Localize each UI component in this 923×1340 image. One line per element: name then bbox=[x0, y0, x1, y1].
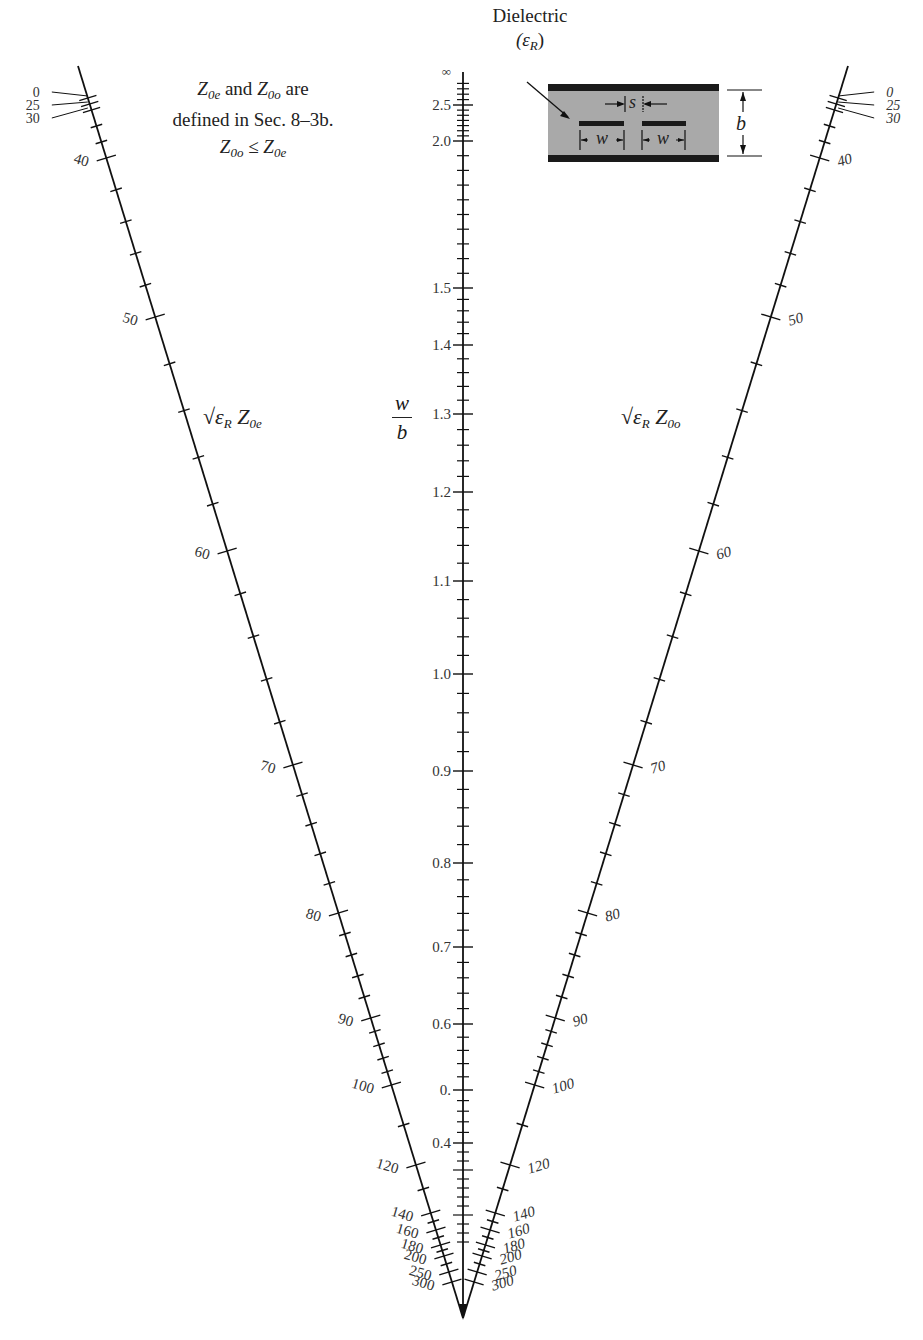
z-subscript: 0e bbox=[208, 87, 220, 102]
width-w-label-left: w bbox=[596, 128, 608, 149]
svg-text:2.5: 2.5 bbox=[432, 97, 451, 113]
svg-text:30: 30 bbox=[26, 111, 40, 126]
z-symbol: Z bbox=[263, 136, 274, 157]
dielectric-text: Dielectric bbox=[465, 4, 595, 28]
bottom-ground-plane bbox=[548, 155, 719, 162]
svg-text:50: 50 bbox=[121, 309, 140, 329]
left-scale-title: √εR Z0e bbox=[203, 404, 262, 432]
svg-text:100: 100 bbox=[350, 1075, 376, 1097]
epsilon-symbol: (ε bbox=[516, 29, 530, 50]
sqrt-epsilon: √ε bbox=[621, 404, 642, 429]
z-subscript: 0e bbox=[249, 416, 261, 431]
sqrt-epsilon: √ε bbox=[203, 404, 224, 429]
z-symbol: Z bbox=[220, 136, 231, 157]
r-subscript: R bbox=[224, 416, 232, 431]
center-scale-w-over-b: ∞2.52.01.51.41.31.21.11.00.90.80.70.60.0… bbox=[432, 64, 473, 1320]
epsilon-subscript: R bbox=[530, 38, 538, 53]
definition-line-1: Z0e and Z0o are bbox=[163, 76, 343, 107]
svg-text:70: 70 bbox=[259, 757, 278, 777]
svg-text:90: 90 bbox=[571, 1010, 590, 1030]
left-scale-z0e: 4050607080901001201401601802002503000253… bbox=[26, 66, 463, 1318]
svg-text:0.6: 0.6 bbox=[432, 1016, 451, 1032]
right-scale-title: √εR Z0o bbox=[621, 404, 680, 432]
svg-text:∞: ∞ bbox=[442, 64, 451, 79]
z-symbol: Z bbox=[197, 78, 208, 99]
svg-text:0.8: 0.8 bbox=[432, 855, 451, 871]
svg-text:100: 100 bbox=[550, 1075, 577, 1097]
epsilon-r-label: (εR) bbox=[465, 28, 595, 58]
svg-text:0.9: 0.9 bbox=[432, 763, 451, 779]
right-scale-z0o: 4050607080901001201401601802002503000253… bbox=[463, 66, 900, 1318]
z-symbol: Z bbox=[232, 404, 250, 429]
spacing-s-label: s bbox=[629, 92, 636, 113]
svg-text:1.5: 1.5 bbox=[432, 280, 451, 296]
svg-text:70: 70 bbox=[648, 757, 667, 777]
svg-text:0.7: 0.7 bbox=[432, 939, 451, 955]
width-w-label-right: w bbox=[657, 128, 669, 149]
svg-text:120: 120 bbox=[525, 1155, 552, 1177]
top-ground-plane bbox=[548, 84, 719, 91]
svg-text:40: 40 bbox=[72, 150, 91, 170]
svg-text:120: 120 bbox=[375, 1155, 401, 1177]
z-subscript: 0o bbox=[230, 145, 243, 160]
conjunction: and bbox=[220, 78, 257, 99]
z-symbol: Z bbox=[650, 404, 668, 429]
svg-text:60: 60 bbox=[714, 543, 733, 563]
svg-text:0.: 0. bbox=[440, 1082, 451, 1098]
definition-line-2: defined in Sec. 8–3b. bbox=[163, 107, 343, 132]
dielectric-label: Dielectric (εR) bbox=[465, 4, 595, 58]
left-strip-conductor bbox=[579, 121, 624, 126]
leq-operator: ≤ bbox=[243, 136, 263, 157]
verb: are bbox=[281, 78, 309, 99]
svg-text:1.3: 1.3 bbox=[432, 406, 451, 422]
svg-text:80: 80 bbox=[603, 905, 622, 925]
svg-text:80: 80 bbox=[304, 905, 323, 925]
fraction-denominator: b bbox=[397, 420, 408, 444]
svg-text:0.4: 0.4 bbox=[432, 1135, 451, 1151]
svg-text:60: 60 bbox=[193, 543, 212, 563]
center-scale-title-w-over-b: w b bbox=[392, 392, 412, 443]
svg-text:2.0: 2.0 bbox=[432, 133, 451, 149]
fraction-bar bbox=[392, 417, 412, 418]
stripline-cross-section-diagram bbox=[527, 82, 762, 162]
svg-text:50: 50 bbox=[786, 309, 805, 329]
svg-text:1.1: 1.1 bbox=[432, 573, 451, 589]
svg-text:40: 40 bbox=[835, 150, 854, 170]
svg-text:1.0: 1.0 bbox=[432, 666, 451, 682]
z-subscript: 0o bbox=[667, 416, 680, 431]
definition-note: Z0e and Z0o are defined in Sec. 8–3b. Z0… bbox=[163, 76, 343, 165]
inequality-line: Z0o ≤ Z0e bbox=[163, 134, 343, 165]
z-symbol: Z bbox=[257, 78, 268, 99]
svg-text:300: 300 bbox=[411, 1272, 437, 1294]
height-b-label: b bbox=[736, 112, 746, 135]
svg-text:30: 30 bbox=[885, 111, 900, 126]
r-subscript: R bbox=[642, 416, 650, 431]
z-subscript: 0o bbox=[268, 87, 281, 102]
svg-text:90: 90 bbox=[337, 1010, 356, 1030]
epsilon-close: ) bbox=[538, 29, 544, 50]
svg-text:1.4: 1.4 bbox=[432, 337, 451, 353]
svg-text:1.2: 1.2 bbox=[432, 484, 451, 500]
svg-text:300: 300 bbox=[488, 1272, 515, 1294]
fraction-numerator: w bbox=[395, 391, 409, 415]
nomograph-canvas: 4050607080901001201401601802002503000253… bbox=[0, 0, 923, 1340]
z-subscript: 0e bbox=[274, 145, 286, 160]
right-strip-conductor bbox=[642, 121, 686, 126]
